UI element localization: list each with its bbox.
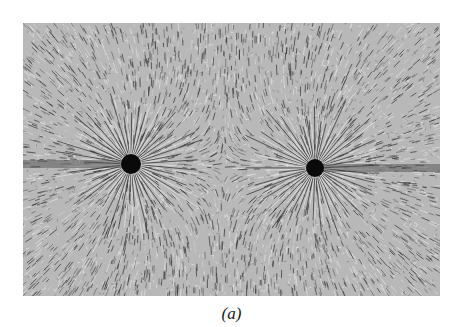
field-line-photo: [23, 23, 440, 296]
left-charge: [121, 154, 141, 174]
right-charge: [306, 159, 324, 177]
field-line-pattern: [23, 23, 440, 296]
figure-caption: (a): [0, 304, 463, 324]
